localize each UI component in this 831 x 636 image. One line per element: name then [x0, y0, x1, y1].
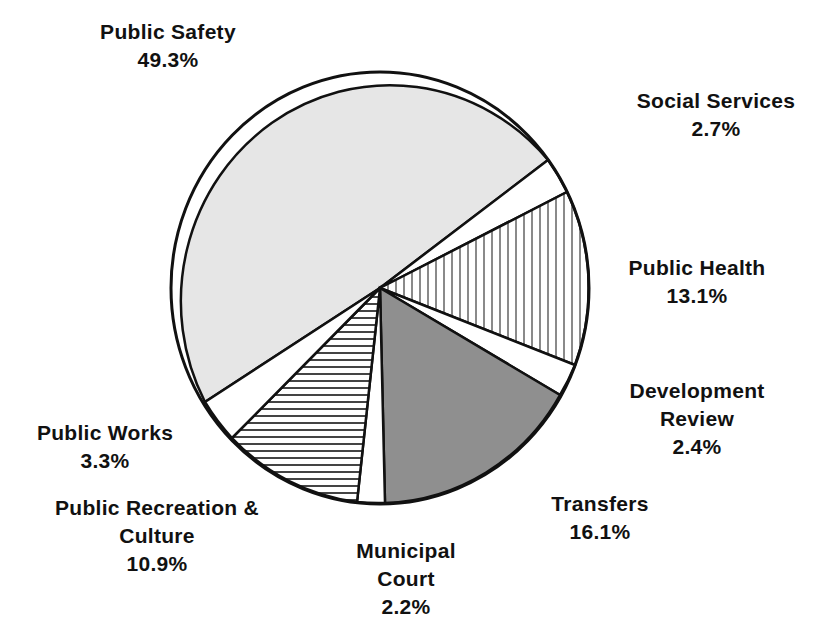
- label-public-recreation: Public Recreation & Culture 10.9%: [55, 494, 259, 578]
- label-public-health: Public Health 13.1%: [629, 254, 766, 310]
- label-public-works: Public Works 3.3%: [37, 419, 173, 475]
- label-development-review: Development Review 2.4%: [629, 377, 764, 461]
- label-public-safety: Public Safety 49.3%: [100, 18, 236, 74]
- label-municipal-court: Municipal Court 2.2%: [356, 537, 456, 621]
- label-transfers: Transfers 16.1%: [551, 490, 648, 546]
- label-social-services: Social Services 2.7%: [637, 87, 796, 143]
